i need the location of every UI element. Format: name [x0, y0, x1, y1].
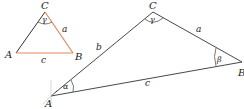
small-vertex-c-label: C: [41, 0, 49, 11]
diagram-canvas: C A B a c γ C B A a b c: [0, 0, 244, 109]
large-side-b-label: b: [96, 42, 102, 52]
large-vertex-a-label: A: [44, 98, 52, 109]
large-side-a: [153, 12, 242, 62]
small-side-c-label: c: [41, 55, 46, 65]
large-side-c-label: c: [145, 78, 150, 88]
large-angle-gamma-label: γ: [150, 15, 155, 24]
large-angle-alpha-label: α: [63, 82, 69, 91]
small-side-a: [45, 12, 73, 53]
large-vertex-b-label: B: [237, 67, 244, 78]
large-vertex-c-label: C: [149, 0, 157, 11]
small-triangle: C A B a c γ: [4, 0, 82, 65]
large-side-a-label: a: [196, 24, 201, 34]
triangle-diagram: C A B a c γ C B A a b c: [0, 0, 244, 109]
large-angle-beta-arc: [215, 48, 217, 66]
large-angle-beta-label: β: [216, 55, 222, 64]
small-side-b: [16, 12, 45, 53]
small-angle-gamma-label: γ: [42, 15, 47, 24]
large-angle-alpha-arc: [71, 80, 74, 92]
large-triangle: C B A a b c γ β α: [43, 0, 244, 109]
small-side-a-label: a: [62, 24, 67, 34]
small-vertex-b-label: B: [74, 51, 82, 62]
small-vertex-a-label: A: [4, 49, 12, 60]
